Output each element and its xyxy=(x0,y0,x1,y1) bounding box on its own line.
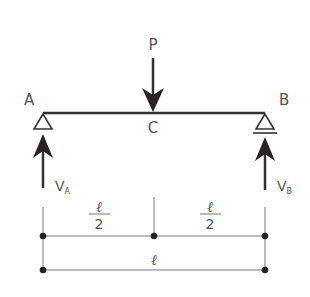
reaction-b-label: VB xyxy=(277,178,292,196)
half-span-left-label: ℓ 2 xyxy=(89,198,110,232)
load-arrow-p xyxy=(142,58,164,112)
svg-text:ℓ: ℓ xyxy=(207,198,213,216)
support-a-label: A xyxy=(24,91,35,109)
svg-text:2: 2 xyxy=(95,216,104,232)
svg-text:2: 2 xyxy=(206,216,215,232)
support-b-label: B xyxy=(279,91,289,109)
svg-text:ℓ: ℓ xyxy=(96,198,102,216)
reaction-arrow-va xyxy=(33,134,53,188)
support-b-icon xyxy=(253,114,277,133)
point-c-label: C xyxy=(148,119,158,137)
reaction-a-label: VA xyxy=(55,178,71,196)
beam-diagram: P C A VA B VB ℓ 2 xyxy=(0,0,310,297)
support-a-icon xyxy=(34,114,52,129)
full-span-label: ℓ xyxy=(151,251,157,269)
reaction-arrow-vb xyxy=(255,137,275,190)
load-label: P xyxy=(148,36,157,54)
half-span-right-label: ℓ 2 xyxy=(200,198,221,232)
